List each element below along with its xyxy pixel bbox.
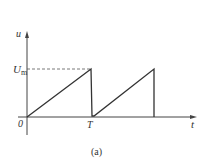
period-label: T xyxy=(87,119,94,130)
peak-label: Um xyxy=(13,63,28,77)
x-axis-label: t xyxy=(191,118,195,130)
sawtooth-waveform xyxy=(27,69,154,117)
figure-caption: (a) xyxy=(91,146,102,158)
y-axis-arrow-icon xyxy=(25,31,29,38)
y-axis-label: u xyxy=(16,28,21,39)
origin-label: 0 xyxy=(18,118,23,129)
sawtooth-diagram: u Um 0 T t (a) xyxy=(0,0,211,165)
